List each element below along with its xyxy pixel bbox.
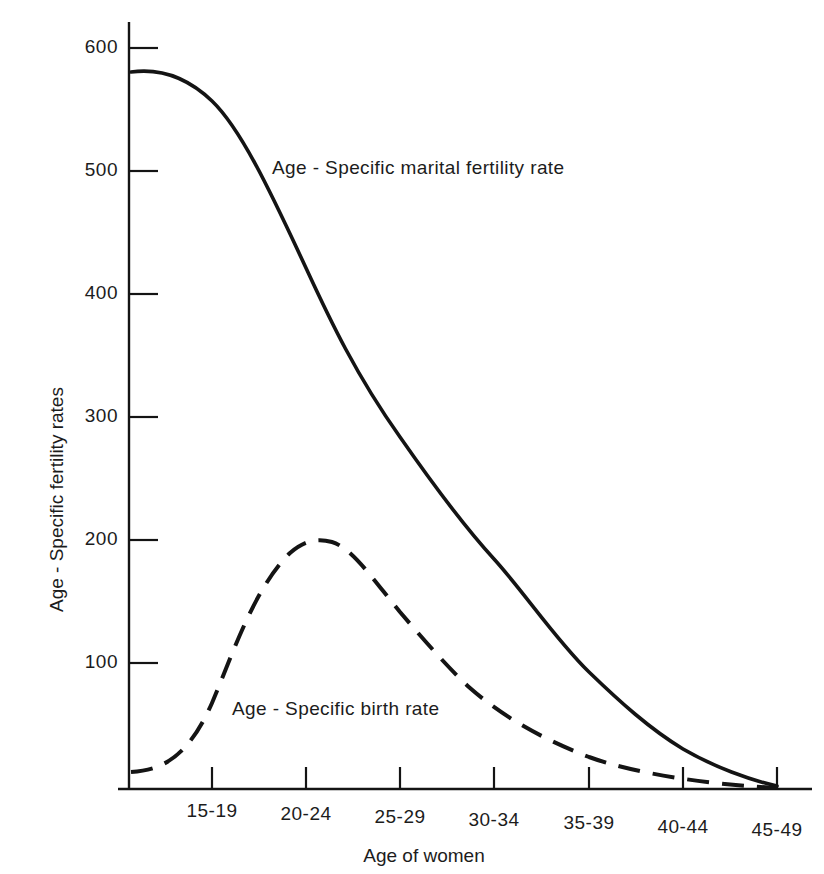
series-label-birth-rate: Age - Specific birth rate	[232, 698, 439, 720]
fertility-rate-chart: 600 500 400 300 200 100 15-19 20-24 25-2…	[0, 0, 824, 874]
x-tick-label-45-49: 45-49	[717, 819, 824, 841]
series-label-marital-fertility: Age - Specific marital fertility rate	[272, 157, 565, 179]
y-tick-label-100: 100	[56, 651, 118, 673]
y-tick-label-400: 400	[56, 282, 118, 304]
series-line-birth-rate	[131, 540, 777, 788]
x-axis-title: Age of women	[363, 845, 484, 867]
y-tick-label-500: 500	[56, 159, 118, 181]
plot-area	[0, 0, 824, 874]
x-axis-ticks	[212, 767, 777, 789]
y-axis-ticks	[129, 48, 158, 663]
y-tick-label-600: 600	[56, 36, 118, 58]
y-axis-title: Age - Specific fertility rates	[46, 387, 68, 612]
